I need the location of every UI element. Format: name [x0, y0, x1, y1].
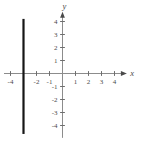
y-tick-label-2: 2 — [54, 44, 58, 52]
x-axis-arrow-icon — [121, 71, 127, 76]
y-tick-label--3: -3 — [52, 109, 58, 117]
x-tick-label-2: 2 — [87, 78, 91, 86]
graph-figure: -4-2-112344321-1-2-3-4xy — [0, 0, 145, 144]
y-tick-label-3: 3 — [54, 31, 58, 39]
x-axis-label: x — [129, 68, 134, 78]
y-tick-label--1: -1 — [52, 83, 58, 91]
x-tick-label-4: 4 — [113, 78, 117, 86]
x-tick-label--4: -4 — [8, 78, 14, 86]
x-tick-label-3: 3 — [100, 78, 104, 86]
y-axis-arrow-icon — [60, 12, 65, 18]
coordinate-plane: -4-2-112344321-1-2-3-4xy — [0, 0, 145, 144]
y-tick-label--2: -2 — [52, 96, 58, 104]
y-tick-label--4: -4 — [52, 122, 58, 130]
y-tick-label-1: 1 — [54, 57, 58, 65]
y-tick-label-4: 4 — [54, 18, 58, 26]
y-axis-label: y — [62, 1, 67, 11]
x-tick-label-1: 1 — [74, 78, 78, 86]
x-tick-label--2: -2 — [34, 78, 40, 86]
